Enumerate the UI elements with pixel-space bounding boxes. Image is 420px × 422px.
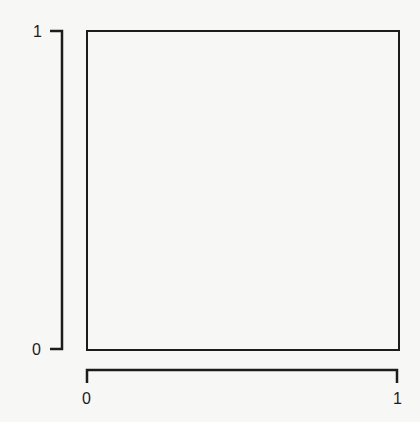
- x-tick-label-min: 0: [82, 391, 91, 407]
- x-tick-label-max: 1: [393, 391, 402, 407]
- y-tick-label-max: 1: [33, 24, 42, 40]
- y-tick-label-min: 0: [32, 342, 41, 358]
- axes-brackets: [0, 0, 420, 422]
- y-axis-bracket: [50, 31, 62, 349]
- x-axis-bracket: [87, 370, 397, 383]
